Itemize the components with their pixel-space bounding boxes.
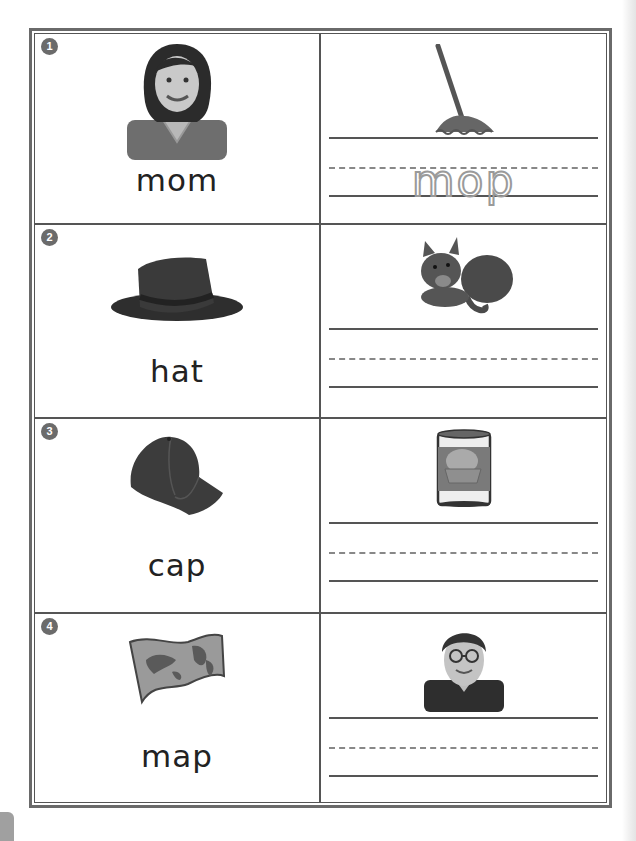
number-badge: 4 xyxy=(41,618,58,635)
page-corner-tab xyxy=(0,812,14,841)
hat-icon xyxy=(110,253,244,323)
word-label: mom xyxy=(35,162,319,198)
worksheet-grid: 1 mom mop 2 xyxy=(35,34,606,802)
handwriting-lines[interactable] xyxy=(329,522,598,602)
woman-portrait-icon xyxy=(125,42,229,160)
row-2-write-cell xyxy=(321,225,606,419)
can-icon xyxy=(435,429,493,507)
number-badge: 2 xyxy=(41,229,58,246)
row-1-word-cell: 1 mom xyxy=(35,34,321,225)
word-label: map xyxy=(35,738,319,774)
word-label: hat xyxy=(35,353,319,389)
row-4-word-cell: 4 map xyxy=(35,614,321,802)
handwriting-lines[interactable] xyxy=(329,328,598,408)
row-3-write-cell xyxy=(321,419,606,614)
map-icon xyxy=(128,632,226,706)
trace-word: mop xyxy=(329,155,598,206)
handwriting-lines[interactable] xyxy=(329,717,598,797)
number-badge: 3 xyxy=(41,423,58,440)
row-3-word-cell: 3 cap xyxy=(35,419,321,614)
page-edge-shadow xyxy=(622,0,636,841)
number-badge: 1 xyxy=(41,38,58,55)
row-4-write-cell xyxy=(321,614,606,802)
handwriting-lines[interactable]: mop xyxy=(329,137,598,217)
cap-icon xyxy=(127,433,227,519)
row-1-write-cell: mop xyxy=(321,34,606,225)
word-label: cap xyxy=(35,547,319,583)
row-2-word-cell: 2 hat xyxy=(35,225,321,419)
cat-icon xyxy=(413,235,515,315)
mop-icon xyxy=(432,44,496,136)
man-portrait-icon xyxy=(424,622,504,712)
